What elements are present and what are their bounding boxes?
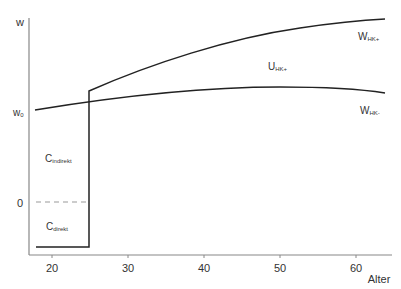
whk-plus-curve (36, 19, 385, 247)
chart-canvas: 20 30 40 50 60 Alter w w0 0 WHK+ UHK+ WH… (0, 0, 401, 289)
x-tick-60: 60 (350, 262, 362, 274)
x-tick-20: 20 (46, 262, 58, 274)
c-indirekt-label: Cindirekt (45, 153, 72, 164)
x-axis-label: Alter (368, 273, 391, 285)
y-axis-label: w (15, 16, 24, 28)
x-tick-40: 40 (198, 262, 210, 274)
whk-minus-label: WHK- (360, 105, 380, 116)
x-tick-50: 50 (274, 262, 286, 274)
whk-plus-label: WHK+ (358, 31, 380, 42)
c-direkt-label: Cdirekt (46, 221, 68, 232)
zero-label: 0 (17, 197, 23, 209)
w0-label: w0 (12, 107, 24, 118)
x-tick-30: 30 (122, 262, 134, 274)
whk-minus-curve (35, 87, 385, 110)
uhk-plus-label: UHK+ (268, 61, 288, 72)
